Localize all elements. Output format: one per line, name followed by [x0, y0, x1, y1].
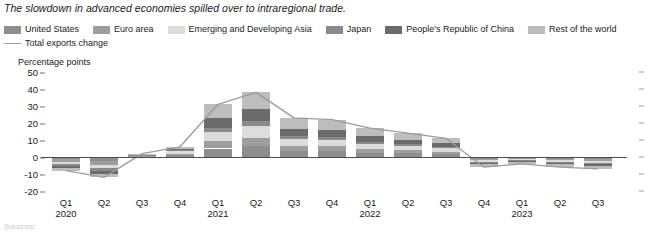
- x-axis-label-group: Q3: [123, 197, 161, 208]
- y-axis-tick-mark: [40, 72, 45, 73]
- y-axis-tick-label: 30: [4, 101, 47, 112]
- color-swatch-icon: [168, 26, 185, 34]
- y-axis-tick-mark: [40, 191, 45, 192]
- x-axis-labels: Q12020Q2Q3Q4Q12021Q2Q3Q4Q12022Q2Q3Q4Q120…: [47, 197, 617, 227]
- y-axis-tick-mark: [40, 123, 45, 124]
- y-axis-tick-mark-right: [639, 72, 644, 73]
- x-axis-label-group: Q12023: [503, 197, 541, 219]
- x-axis-quarter-label: Q3: [123, 197, 161, 208]
- legend-item-china[interactable]: People's Republic of China: [385, 25, 514, 34]
- color-swatch-icon: [4, 26, 21, 34]
- x-axis-quarter-label: Q1: [199, 197, 237, 208]
- legend-item-rest-of-world[interactable]: Rest of the world: [528, 25, 617, 34]
- color-swatch-icon: [326, 26, 343, 34]
- y-axis-tick-mark-right: [639, 123, 644, 124]
- line-path-total-exports-change: [66, 92, 598, 177]
- x-axis-label-group: Q3: [579, 197, 617, 208]
- x-axis-label-group: Q3: [427, 197, 465, 208]
- legend-item-label: Rest of the world: [549, 25, 617, 34]
- legend-row-swatches: United StatesEuro areaEmerging and Devel…: [4, 24, 644, 35]
- color-swatch-icon: [385, 26, 402, 34]
- figure-chart: The slowdown in advanced economies spill…: [0, 0, 648, 232]
- x-axis-quarter-label: Q3: [427, 197, 465, 208]
- x-axis-label-group: Q2: [389, 197, 427, 208]
- x-axis-label-group: Q12021: [199, 197, 237, 219]
- legend-item-label: Japan: [347, 25, 372, 34]
- legend-item-euro-area[interactable]: Euro area: [93, 25, 154, 34]
- x-axis-label-group: Q2: [237, 197, 275, 208]
- y-axis-tick-label: 40: [4, 84, 47, 95]
- y-axis-tick-label: 10: [4, 135, 47, 146]
- y-axis-tick-mark: [40, 106, 45, 107]
- x-axis-label-group: Q4: [161, 197, 199, 208]
- legend-item-label: Total exports change: [25, 39, 108, 48]
- legend-item-japan[interactable]: Japan: [326, 25, 372, 34]
- x-axis-quarter-label: Q1: [47, 197, 85, 208]
- x-axis-quarter-label: Q1: [351, 197, 389, 208]
- y-axis-tick-label: -20: [4, 186, 47, 197]
- y-axis-tick-label: -10: [4, 169, 47, 180]
- x-axis-label-group: Q12020: [47, 197, 85, 219]
- y-axis-unit-label: Percentage points: [18, 57, 91, 67]
- x-axis-quarter-label: Q1: [503, 197, 541, 208]
- y-axis-tick-mark-right: [639, 157, 644, 158]
- x-axis-label-group: Q4: [313, 197, 351, 208]
- x-axis-quarter-label: Q3: [579, 197, 617, 208]
- color-swatch-icon: [528, 26, 545, 34]
- x-axis-year-label: 2023: [503, 208, 541, 219]
- x-axis-label-group: Q3: [275, 197, 313, 208]
- y-axis-tick-mark: [40, 89, 45, 90]
- x-axis-label-group: Q2: [541, 197, 579, 208]
- x-axis-label-group: Q2: [85, 197, 123, 208]
- y-axis-tick-mark: [40, 174, 45, 175]
- x-axis-quarter-label: Q2: [237, 197, 275, 208]
- legend-item-total-exports-change[interactable]: Total exports change: [4, 39, 108, 48]
- page-title: The slowdown in advanced economies spill…: [4, 2, 346, 14]
- x-axis-quarter-label: Q2: [541, 197, 579, 208]
- sources-note: Sources:: [4, 222, 36, 231]
- x-axis-label-group: Q4: [465, 197, 503, 208]
- legend-item-label: People's Republic of China: [406, 25, 514, 34]
- legend-item-label: United States: [25, 25, 79, 34]
- x-axis-year-label: 2021: [199, 208, 237, 219]
- chart-legend: United StatesEuro areaEmerging and Devel…: [4, 24, 644, 49]
- legend-row-line: Total exports change: [4, 38, 644, 49]
- y-axis-tick-label: 20: [4, 118, 47, 129]
- y-axis-tick-mark: [40, 140, 45, 141]
- y-axis-tick-mark-right: [639, 140, 644, 141]
- total-exports-line: [47, 72, 617, 191]
- x-axis-quarter-label: Q2: [389, 197, 427, 208]
- line-swatch-icon: [4, 43, 21, 44]
- plot-area: 50403020100-10-20: [47, 72, 617, 191]
- x-axis-quarter-label: Q3: [275, 197, 313, 208]
- legend-item-label: Emerging and Developing Asia: [189, 25, 312, 34]
- legend-item-united-states[interactable]: United States: [4, 25, 79, 34]
- y-axis-tick-mark-right: [639, 89, 644, 90]
- legend-item-emerging-developing-asia[interactable]: Emerging and Developing Asia: [168, 25, 312, 34]
- x-axis-quarter-label: Q4: [161, 197, 199, 208]
- x-axis-quarter-label: Q2: [85, 197, 123, 208]
- zero-baseline: [41, 157, 627, 158]
- x-axis-label-group: Q12022: [351, 197, 389, 219]
- x-axis-quarter-label: Q4: [313, 197, 351, 208]
- y-axis-tick-mark-right: [639, 174, 644, 175]
- x-axis-quarter-label: Q4: [465, 197, 503, 208]
- y-axis-tick-mark-right: [639, 191, 644, 192]
- x-axis-year-label: 2022: [351, 208, 389, 219]
- y-axis-tick-label: 50: [4, 67, 47, 78]
- y-axis-tick-mark-right: [639, 106, 644, 107]
- legend-item-label: Euro area: [114, 25, 154, 34]
- color-swatch-icon: [93, 26, 110, 34]
- x-axis-year-label: 2020: [47, 208, 85, 219]
